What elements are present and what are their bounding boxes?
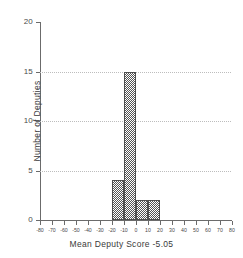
x-axis-tick: [40, 221, 41, 225]
gridline: [40, 121, 232, 122]
y-axis-tick-label: 0: [28, 216, 33, 224]
x-axis-tick: [160, 221, 161, 225]
plot-area: 05101520: [40, 22, 232, 220]
y-axis-tick-label: 15: [24, 68, 33, 76]
x-axis-tick: [100, 221, 101, 225]
y-axis-tick: [36, 72, 40, 73]
x-axis-title: Mean Deputy Score -5.05: [0, 239, 243, 249]
x-axis-tick-label: -50: [72, 227, 80, 233]
y-axis-title-container: Number of Deputies: [0, 22, 16, 220]
x-axis-tick: [136, 221, 137, 225]
gridline: [40, 72, 232, 73]
x-axis-tick-label: 80: [229, 227, 235, 233]
x-axis-tick: [220, 221, 221, 225]
x-axis-ticks: -80-70-60-50-40-30-20-100102030405060708…: [40, 221, 232, 237]
x-axis-tick-label: -10: [120, 227, 128, 233]
histogram-bar: [148, 200, 160, 220]
x-axis-tick-label: 20: [157, 227, 163, 233]
x-axis-tick-label: -80: [36, 227, 44, 233]
x-axis-tick-label: 70: [217, 227, 223, 233]
x-axis-tick: [148, 221, 149, 225]
y-axis-tick: [36, 22, 40, 23]
x-axis-tick-label: -40: [84, 227, 92, 233]
x-axis-tick-label: 60: [205, 227, 211, 233]
x-axis-tick: [112, 221, 113, 225]
x-axis-tick-label: -20: [108, 227, 116, 233]
x-axis-tick-label: 10: [145, 227, 151, 233]
x-axis-tick: [196, 221, 197, 225]
x-axis-tick: [172, 221, 173, 225]
x-axis-tick-label: 30: [169, 227, 175, 233]
x-axis-tick-label: 40: [181, 227, 187, 233]
y-axis-tick-label: 20: [24, 18, 33, 26]
x-axis-tick-label: -30: [96, 227, 104, 233]
x-axis-tick: [232, 221, 233, 225]
y-axis-tick-label: 10: [24, 117, 33, 125]
x-axis-tick: [52, 221, 53, 225]
x-axis-tick-label: -60: [60, 227, 68, 233]
y-axis-tick: [36, 121, 40, 122]
y-axis-tick: [36, 171, 40, 172]
gridline: [40, 171, 232, 172]
histogram-bar: [124, 72, 136, 221]
x-axis-tick-label: 50: [193, 227, 199, 233]
x-axis-tick-label: -70: [48, 227, 56, 233]
x-axis-tick: [124, 221, 125, 225]
histogram-bar: [112, 180, 124, 220]
x-axis-tick-label: 0: [135, 227, 138, 233]
histogram-chart: Number of Deputies 05101520 -80-70-60-50…: [0, 0, 243, 258]
y-axis-tick-label: 5: [28, 167, 33, 175]
histogram-bar: [136, 200, 148, 220]
x-axis-tick: [64, 221, 65, 225]
x-axis-tick: [208, 221, 209, 225]
x-axis-tick: [88, 221, 89, 225]
x-axis-tick: [76, 221, 77, 225]
x-axis-tick: [184, 221, 185, 225]
